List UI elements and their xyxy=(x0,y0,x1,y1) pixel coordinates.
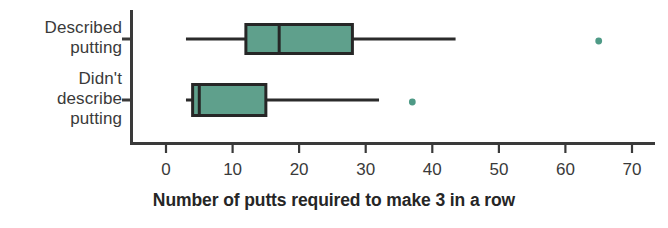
x-tick-label-60: 60 xyxy=(556,160,575,179)
x-tick-label-50: 50 xyxy=(489,160,508,179)
box-described-putting xyxy=(186,25,602,54)
x-tick-label-70: 70 xyxy=(623,160,642,179)
box-body-didnt-describe-putting xyxy=(193,85,266,116)
outlier-point-didnt-describe-putting xyxy=(409,99,416,106)
category-label-described-putting: Described putting xyxy=(0,18,122,58)
category-label-didnt-describe-putting: Didn't describe putting xyxy=(0,69,122,129)
x-tick-label-30: 30 xyxy=(356,160,375,179)
boxplot-chart: Described putting Didn't describe puttin… xyxy=(0,0,668,228)
x-tick-label-0: 0 xyxy=(161,160,170,179)
x-tick-label-40: 40 xyxy=(423,160,442,179)
box-body-described-putting xyxy=(246,25,353,54)
outlier-point-described-putting xyxy=(595,38,602,45)
x-tick-label-10: 10 xyxy=(223,160,242,179)
box-didnt-describe-putting xyxy=(186,85,416,116)
x-axis-title: Number of putts required to make 3 in a … xyxy=(0,190,668,211)
x-tick-label-20: 20 xyxy=(290,160,309,179)
